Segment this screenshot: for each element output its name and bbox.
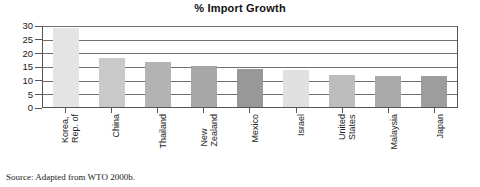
x-label-slot: Mexico (237, 114, 263, 172)
x-axis-label-line: Zealand (209, 114, 219, 147)
chart-title: % Import Growth (0, 2, 480, 14)
bar-series (43, 26, 457, 107)
x-axis-label-line: Thailand (158, 114, 168, 149)
y-tick-mark (35, 80, 42, 81)
x-tick-mark (342, 108, 343, 113)
x-label-slot: UnitedStates (329, 114, 355, 172)
x-tick-mark (249, 108, 250, 113)
x-label-slot: China (98, 114, 124, 172)
x-axis-label-line: Mexico (250, 114, 260, 143)
x-axis-label-line: States (347, 114, 357, 140)
x-axis-label-israel: Israel (296, 114, 306, 136)
y-tick-label: 25 (22, 34, 35, 44)
x-axis-label-line: Japan (435, 114, 445, 139)
x-axis-label-malaysia: Malaysia (389, 114, 399, 150)
x-tick-slot (237, 108, 263, 113)
x-axis-label-line: China (111, 114, 121, 138)
y-tick-mark (35, 67, 42, 68)
x-axis-label-line: Korea, (60, 114, 70, 143)
x-tick-mark (203, 108, 204, 113)
x-label-slot: Japan (422, 114, 448, 172)
x-tick-mark (296, 108, 297, 113)
bar-israel[interactable] (283, 70, 309, 107)
y-axis: 051015202530 (0, 26, 42, 108)
x-label-slot: Malaysia (376, 114, 402, 172)
x-label-slot: NewZealand (191, 114, 217, 172)
y-tick-label: 5 (28, 89, 35, 99)
x-tick-slot (52, 108, 78, 113)
x-tick-slot (283, 108, 309, 113)
bar-japan[interactable] (421, 76, 447, 107)
x-tick-slot (422, 108, 448, 113)
x-tick-mark (65, 108, 66, 113)
x-tick-slot (329, 108, 355, 113)
bar-mexico[interactable] (237, 69, 263, 107)
y-tick-label: 10 (22, 75, 35, 85)
x-axis-label-thailand: Thailand (158, 114, 168, 149)
x-tick-mark (111, 108, 112, 113)
x-tick-slot (191, 108, 217, 113)
x-axis-label-line: New (199, 114, 209, 147)
x-axis-label-china: China (111, 114, 121, 138)
x-axis-label-line: Malaysia (389, 114, 399, 150)
plot-area (42, 26, 458, 108)
y-tick-label: 30 (22, 21, 35, 31)
y-tick-label: 0 (28, 103, 35, 113)
x-axis-label-line: Rep. of (70, 114, 80, 143)
x-axis-label-line: Israel (296, 114, 306, 136)
x-axis-labels: Korea,Rep. ofChinaThailandNewZealandMexi… (42, 114, 458, 172)
bar-china[interactable] (99, 58, 125, 107)
x-label-slot: Korea,Rep. of (52, 114, 78, 172)
y-tick-label: 20 (22, 48, 35, 58)
y-tick-mark (35, 53, 42, 54)
x-axis-label-line: United (337, 114, 347, 140)
y-tick-mark (35, 108, 42, 109)
bar-korea-rep-of[interactable] (53, 28, 79, 107)
x-axis-label-mexico: Mexico (250, 114, 260, 143)
x-tick-slot (376, 108, 402, 113)
x-label-slot: Israel (283, 114, 309, 172)
x-label-slot: Thailand (145, 114, 171, 172)
x-axis-label-korea-rep-of: Korea,Rep. of (60, 114, 80, 143)
import-growth-figure: % Import Growth 051015202530 Korea,Rep. … (0, 0, 480, 187)
x-axis-label-united-states: UnitedStates (337, 114, 357, 140)
x-axis-ticks (42, 108, 458, 113)
y-tick-mark (35, 26, 42, 27)
x-axis-label-new-zealand: NewZealand (199, 114, 219, 147)
x-axis-label-japan: Japan (435, 114, 445, 139)
y-tick-mark (35, 39, 42, 40)
source-note: Source: Adapted from WTO 2000b. (6, 172, 135, 182)
bar-thailand[interactable] (145, 62, 171, 107)
x-tick-mark (434, 108, 435, 113)
x-tick-slot (98, 108, 124, 113)
y-tick-mark (35, 94, 42, 95)
y-tick-label: 15 (22, 62, 35, 72)
bar-malaysia[interactable] (375, 76, 401, 107)
x-tick-mark (388, 108, 389, 113)
x-tick-slot (145, 108, 171, 113)
bar-united-states[interactable] (329, 75, 355, 107)
bar-new-zealand[interactable] (191, 66, 217, 107)
x-tick-mark (157, 108, 158, 113)
